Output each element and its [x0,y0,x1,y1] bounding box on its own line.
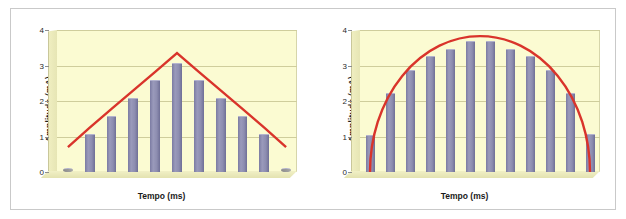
y-tick-label: 3 [335,61,347,70]
y-tick-mark [348,101,352,102]
chart-left: Amplitude (mA) 01234 Tempo (ms) [10,8,313,210]
figure-root: Amplitude (mA) 01234 Tempo (ms) Amplitud… [0,0,626,219]
y-tick-label: 1 [335,132,347,141]
y-tick-mark [45,137,49,138]
y-tick-mark [348,30,352,31]
chart-right: Amplitude (mA) 01234 Tempo (ms) [313,8,616,210]
y-tick-mark [45,101,49,102]
y-axis-ticks-left: 01234 [32,8,44,210]
plot-area-right [351,30,600,172]
envelope-svg [360,30,600,176]
y-tick-mark [348,66,352,67]
y-tick-label: 2 [32,97,44,106]
y-tick-mark [45,30,49,31]
y-tick-mark [45,66,49,67]
y-tick-mark [348,137,352,138]
plot-area-left [48,30,297,172]
y-tick-label: 4 [32,26,44,35]
x-axis-label-right: Tempo (ms) [313,191,616,201]
envelope-svg [57,30,297,176]
plot-sidewall-right [351,30,360,173]
y-tick-label: 3 [32,61,44,70]
envelope-line-right [360,30,600,172]
y-tick-label: 4 [335,26,347,35]
envelope-line-left [57,30,297,172]
x-axis-label-left: Tempo (ms) [10,191,313,201]
y-tick-mark [45,172,49,173]
chart-panel-right: Amplitude (mA) 01234 Tempo (ms) [313,8,616,210]
y-tick-label: 2 [335,97,347,106]
y-axis-ticks-right: 01234 [335,8,347,210]
envelope-path [370,36,590,172]
chart-panel-left: Amplitude (mA) 01234 Tempo (ms) [10,8,313,210]
envelope-path [68,53,286,147]
y-tick-label: 1 [32,132,44,141]
y-tick-mark [348,172,352,173]
plot-sidewall-left [48,30,57,173]
